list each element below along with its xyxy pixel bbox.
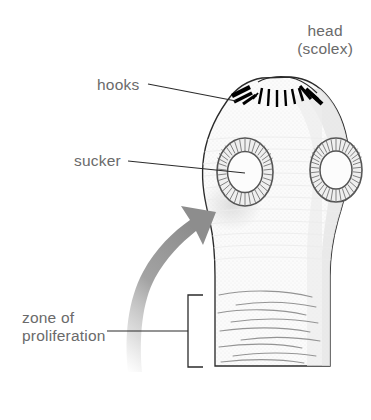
label-zone-of-proliferation: zone of proliferation: [22, 309, 106, 345]
label-hooks: hooks: [97, 76, 139, 94]
label-sucker: sucker: [74, 152, 121, 170]
diagram-canvas: head (scolex) hooks sucker zone of proli…: [0, 0, 371, 420]
label-head-scolex: head (scolex): [297, 22, 353, 58]
label-head-line2: (scolex): [297, 40, 353, 58]
sucker-left: [217, 138, 273, 206]
zone-bracket: [188, 295, 203, 367]
label-head-line1: head: [297, 22, 353, 40]
leader-hooks: [148, 84, 236, 101]
tapeworm-scolex-illustration: [0, 0, 371, 420]
label-zone-line2: proliferation: [22, 327, 106, 345]
label-zone-line1: zone of: [22, 309, 106, 327]
sucker-right: [310, 138, 362, 202]
scolex-body: [202, 77, 352, 370]
growth-direction-arrow: [127, 206, 216, 372]
